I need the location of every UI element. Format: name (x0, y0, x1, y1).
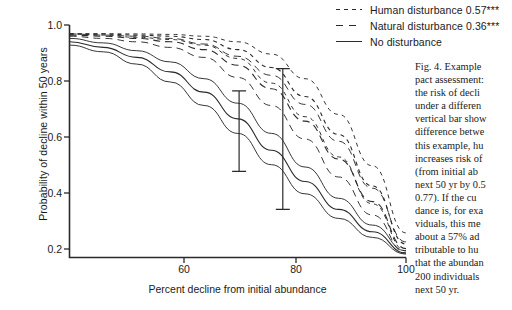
legend-label-no-disturbance: No disturbance (370, 34, 442, 50)
caption-line: 200 individuals (415, 270, 512, 283)
caption-line: dance is, for exa (415, 204, 512, 217)
figure-caption: Fig. 4. Example pact assessment: the ris… (415, 60, 512, 310)
caption-line: tributable to hu (415, 243, 512, 256)
caption-line: 0.77). If the cu (415, 191, 512, 204)
y-tick-label-0.4: 0.4 (34, 187, 62, 199)
y-tick-label-1.0: 1.0 (34, 19, 62, 31)
caption-line: increases risk of (415, 152, 512, 165)
caption-line: the risk of decli (415, 86, 512, 99)
figure-panel: Human disturbance 0.57*** Natural distur… (0, 0, 512, 310)
caption-line: pact assessment: (415, 73, 512, 86)
curve-solid-values (70, 42, 407, 253)
legend-item-no-disturbance[interactable]: No disturbance (336, 34, 512, 50)
caption-line: that the abundan (415, 256, 512, 269)
y-axis-tick-labels: 1.0 0.8 0.6 0.4 0.2 (34, 0, 62, 310)
caption-line: vertical bar show (415, 112, 512, 125)
chart-legend: Human disturbance 0.57*** Natural distur… (336, 2, 512, 50)
curve-dotted-band-lower (70, 34, 407, 251)
caption-line: difference betwe (415, 125, 512, 138)
solid-line-swatch-icon (336, 37, 362, 47)
legend-item-human-disturbance[interactable]: Human disturbance 0.57*** (336, 2, 512, 18)
x-tick-label-60: 60 (169, 263, 199, 275)
caption-line: viduals, this me (415, 217, 512, 230)
legend-label-natural-disturbance: Natural disturbance 0.36*** (370, 18, 499, 34)
dashed-line-swatch-icon (336, 21, 362, 31)
caption-line: (from initial ab (415, 165, 512, 178)
legend-label-human-disturbance: Human disturbance 0.57*** (370, 2, 499, 18)
y-tick-label-0.2: 0.2 (34, 243, 62, 255)
y-tick-label-0.6: 0.6 (34, 131, 62, 143)
caption-line: Fig. 4. Example (415, 60, 512, 73)
x-tick-label-80: 80 (281, 263, 311, 275)
caption-line: under a differen (415, 99, 512, 112)
dotted-line-swatch-icon (336, 5, 362, 15)
legend-item-natural-disturbance[interactable]: Natural disturbance 0.36*** (336, 18, 512, 34)
caption-line: next 50 yr by 0.5 (415, 178, 512, 191)
caption-line: about a 57% ad (415, 230, 512, 243)
caption-line: next 50 yr. (415, 283, 512, 296)
curve-solid-band-upper (70, 38, 407, 250)
caption-line: this example, hu (415, 139, 512, 152)
x-axis-title: Percent decline from initial abundance (69, 283, 406, 295)
curve-solid-band-lower (70, 45, 407, 254)
curve-dashed-values (70, 35, 407, 249)
data-curves (70, 34, 407, 254)
y-tick-label-0.8: 0.8 (34, 75, 62, 87)
